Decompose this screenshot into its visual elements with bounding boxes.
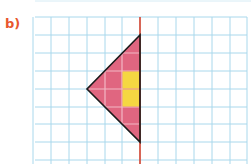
symmetry-grid-figure [0,0,251,164]
